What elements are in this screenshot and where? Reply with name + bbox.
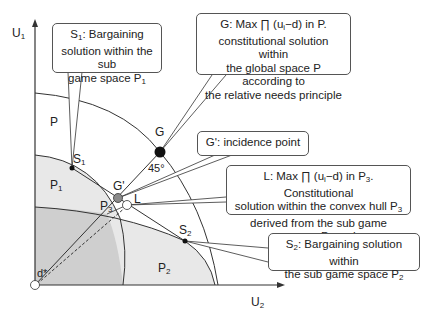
point-g-prime: [114, 194, 123, 203]
callout-g-prime: G': incidence point: [197, 131, 309, 156]
callout-g: G: Max ∏ (ui−d) in P. constitutional sol…: [196, 13, 351, 75]
point-l-label: L: [134, 193, 141, 206]
point-g-label: G: [155, 126, 164, 139]
callout-s2: S2: Bargaining solution within the sub g…: [268, 233, 420, 271]
l-pointer: [127, 197, 226, 205]
y-axis-arrow: [32, 19, 38, 27]
region-p-label: P: [50, 116, 58, 129]
point-s2-label: S2: [179, 224, 191, 240]
callout-s1: S1: Bargaining solution within the sub g…: [52, 23, 162, 73]
point-s1-label: S1: [73, 153, 85, 169]
y-axis-label: U1: [12, 27, 25, 43]
point-g-prime-label: G': [113, 180, 125, 193]
point-d-star: [31, 281, 40, 290]
point-g: [155, 147, 166, 158]
origin-label: d*: [37, 267, 47, 280]
region-p1-label: P1: [50, 179, 62, 195]
region-p3-label: P3: [100, 200, 112, 216]
angle-label: 45°: [148, 162, 165, 175]
callout-l: L: Max ∏ (ui−d) in P3. Constitutional so…: [226, 165, 411, 215]
region-p2-label: P2: [158, 262, 170, 278]
point-l: [123, 201, 132, 210]
x-axis-label: U2: [251, 296, 264, 312]
